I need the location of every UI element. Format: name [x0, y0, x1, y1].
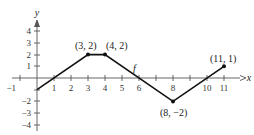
x-tick-label: 10 [203, 83, 213, 93]
x-tick-label: 1 [52, 83, 57, 93]
y-axis-label: y [34, 7, 40, 18]
point-label: (8, −2) [160, 107, 187, 119]
x-axis-label: x [246, 72, 252, 83]
point-4-2 [103, 53, 107, 57]
point-8-neg2 [171, 99, 175, 103]
point-label: (4, 2) [106, 40, 128, 52]
y-tick-label: −3 [21, 108, 31, 118]
x-tick-label: 4 [103, 83, 108, 93]
y-axis [35, 20, 40, 131]
function-label: f [133, 63, 137, 74]
x-tick-label: 2 [69, 83, 74, 93]
y-tick-label: 4 [27, 26, 32, 36]
y-tick-label: −2 [21, 96, 31, 106]
function-graph: −1 1 2 3 4 5 6 8 10 11 4 3 2 1 −2 −3 −4 … [0, 0, 254, 135]
x-tick-label: 8 [171, 83, 176, 93]
y-tick-label: −4 [21, 120, 31, 130]
y-tick-label: 1 [27, 61, 32, 71]
y-tick-label: 3 [27, 38, 32, 48]
point-label: (3, 2) [75, 40, 97, 52]
point-label: (11, 1) [210, 53, 236, 65]
x-tick-label: 11 [220, 83, 229, 93]
x-tick-label: 3 [86, 83, 91, 93]
point-3-2 [86, 53, 90, 57]
x-tick-label: 6 [137, 83, 142, 93]
y-tick-label: 2 [27, 50, 32, 60]
x-tick-label: 5 [120, 83, 125, 93]
point-11-1 [222, 64, 226, 68]
x-tick-label: −1 [6, 83, 16, 93]
